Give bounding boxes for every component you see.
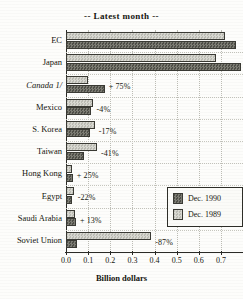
legend-swatch-dec-1990 <box>173 193 183 204</box>
bar-dec-1990 <box>66 41 236 49</box>
bar-group: + 25% <box>66 163 243 185</box>
x-tick-label: 0.7 <box>216 256 226 265</box>
bar-dec-1990 <box>66 107 91 115</box>
bar-group: + 75% <box>66 74 243 96</box>
legend-item-dec-1989: Dec. 1989 <box>173 208 221 221</box>
x-tick-label: 0.2 <box>105 256 115 265</box>
legend-label-dec-1989: Dec. 1989 <box>188 210 221 219</box>
x-tick-mark <box>132 251 133 255</box>
bar-group: -4% <box>66 97 243 119</box>
category-label: Egypt <box>0 191 66 201</box>
bar-dec-1989 <box>66 121 95 129</box>
bar-dec-1989 <box>66 99 93 107</box>
bar-value-label: -22% <box>78 193 96 202</box>
x-tick-mark <box>199 251 200 255</box>
bar-group <box>66 30 243 52</box>
bar-value-label: -87% <box>155 238 173 247</box>
x-tick-label: 0.5 <box>172 256 182 265</box>
bar-group: -41% <box>66 141 243 163</box>
bar-dec-1990 <box>66 218 76 226</box>
category-label: Saudi Arabia <box>0 213 66 223</box>
bar-dec-1989 <box>66 143 97 151</box>
bar-dec-1990 <box>66 174 73 182</box>
x-tick-mark <box>155 251 156 255</box>
x-tick-label: 0.6 <box>194 256 204 265</box>
legend: Dec. 1990 Dec. 1989 <box>167 187 243 227</box>
bar-chart: -- Latest month -- + 5+ 75%-4%-17%-41%+ … <box>0 0 243 299</box>
category-label: Soviet Union <box>0 235 66 245</box>
bar-dec-1989 <box>66 32 225 40</box>
bar-dec-1990 <box>66 152 84 160</box>
bar-dec-1989 <box>66 54 216 62</box>
category-labels: ECJapanCanada 1/MexicoS. KoreaTaiwanHong… <box>0 30 62 252</box>
bar-value-label: + 25% <box>77 171 99 180</box>
bar-dec-1989 <box>66 76 88 84</box>
bar-dec-1989 <box>66 187 74 195</box>
legend-item-dec-1990: Dec. 1990 <box>173 192 221 205</box>
x-tick-label: 0.1 <box>83 256 93 265</box>
bar-value-label: + 75% <box>109 82 131 91</box>
bar-dec-1990 <box>66 240 77 248</box>
category-label: EC <box>0 35 66 45</box>
category-label: S. Korea <box>0 124 66 134</box>
bar-value-label: -17% <box>99 127 117 136</box>
bar-dec-1990 <box>66 196 72 204</box>
bar-dec-1989 <box>66 232 151 240</box>
chart-title: -- Latest month -- <box>0 11 243 21</box>
x-tick-label: 0.3 <box>127 256 137 265</box>
x-tick-label: 0.0 <box>61 256 71 265</box>
category-label: Hong Kong <box>0 168 66 178</box>
x-axis-tick-labels: 0.00.10.20.30.40.50.60.7 <box>66 256 243 268</box>
bar-group: -87% <box>66 230 243 252</box>
x-axis-label: Billion dollars <box>0 273 243 283</box>
legend-label-dec-1990: Dec. 1990 <box>188 194 221 203</box>
x-tick-mark <box>66 251 67 255</box>
bar-dec-1990 <box>66 63 241 71</box>
category-label: Japan <box>0 57 66 67</box>
bar-dec-1989 <box>66 210 75 218</box>
bar-dec-1990 <box>66 129 90 137</box>
bar-value-label: -41% <box>101 149 119 158</box>
bar-dec-1989 <box>66 165 72 173</box>
category-label: Canada 1/ <box>0 80 66 90</box>
bar-value-label: + 13% <box>80 216 102 225</box>
bar-group: + 5 <box>66 52 243 74</box>
bar-group: -17% <box>66 119 243 141</box>
x-tick-mark <box>177 251 178 255</box>
x-tick-mark <box>88 251 89 255</box>
legend-swatch-dec-1989 <box>173 209 183 220</box>
x-tick-label: 0.4 <box>150 256 160 265</box>
x-tick-mark <box>221 251 222 255</box>
bar-value-label: -4% <box>97 105 111 114</box>
bar-dec-1990 <box>66 85 105 93</box>
category-label: Taiwan <box>0 146 66 156</box>
category-label: Mexico <box>0 102 66 112</box>
x-tick-mark <box>110 251 111 255</box>
